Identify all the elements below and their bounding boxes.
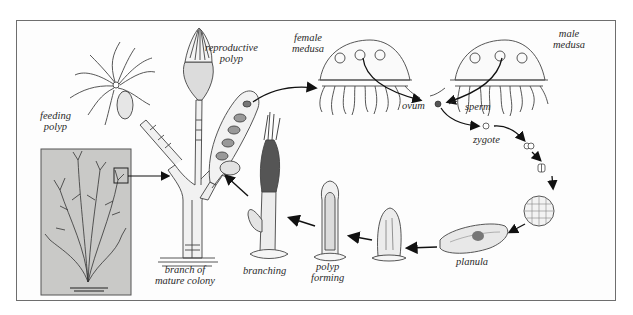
arrow-polyp-to-medusa — [253, 87, 315, 102]
zygote-cell — [483, 123, 489, 129]
arrow-to-blastula — [552, 176, 553, 188]
label-branch-of-mature-colony: branch of mature colony — [155, 264, 215, 286]
arrow-to-planula — [510, 224, 525, 232]
arrow-to-morula — [532, 152, 540, 160]
morula-cells — [538, 164, 545, 172]
label-branching: branching — [243, 265, 286, 276]
label-male-medusa: male medusa — [553, 28, 585, 50]
blastula-illustration — [524, 196, 554, 226]
mature-colony-panel — [41, 149, 131, 295]
label-sperm: sperm — [465, 101, 491, 112]
label-female-medusa: female medusa — [292, 32, 324, 54]
ovum-dot — [435, 101, 441, 107]
polyp-forming-illustration — [314, 181, 346, 261]
arrow-to-colony — [226, 176, 248, 196]
label-polyp-forming: polyp forming — [311, 261, 344, 283]
label-reproductive-polyp: reproductive polyp — [205, 42, 258, 64]
branching-illustration — [248, 112, 288, 259]
label-feeding-polyp: feeding polyp — [40, 110, 71, 132]
life-cycle-diagram: feeding polyp reproductive polyp female … — [0, 0, 633, 315]
cleavage-cells — [524, 143, 534, 149]
planula-illustration — [440, 224, 508, 253]
label-ovum: ovum — [402, 100, 425, 111]
label-planula: planula — [456, 256, 488, 267]
arrow-to-settled-larva — [408, 247, 437, 248]
arrow-to-branching — [290, 218, 315, 226]
arrow-to-polyp-forming — [350, 236, 372, 240]
cone-polyp-illustration — [183, 28, 213, 100]
settled-larva-illustration — [372, 208, 406, 261]
label-zygote: zygote — [473, 134, 500, 145]
feeding-polyp-illustration — [70, 42, 155, 125]
reproductive-polyp-illustration — [200, 91, 259, 200]
